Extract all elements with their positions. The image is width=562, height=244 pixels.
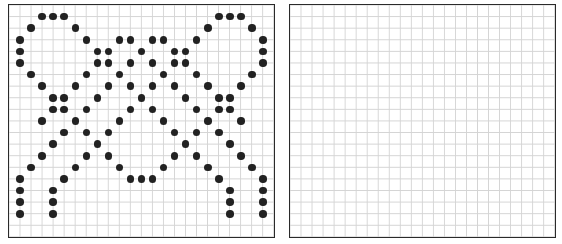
grid-dot <box>60 94 68 102</box>
grid-dot <box>127 175 135 183</box>
grid-dot <box>204 24 212 32</box>
grid-dot <box>182 94 190 102</box>
grid-dot <box>16 36 24 44</box>
grid-dot <box>171 152 179 160</box>
grid-dot <box>60 106 68 114</box>
grid-dot <box>204 82 212 90</box>
grid-dot <box>215 175 223 183</box>
grid-dot <box>38 152 46 160</box>
grid-dot <box>259 198 267 206</box>
grid-dot <box>105 152 113 160</box>
drawing-grid-panel[interactable]: empty drawing grid <box>289 4 556 238</box>
grid-dot <box>149 175 157 183</box>
grid-dot <box>193 152 201 160</box>
grid-dot <box>204 117 212 125</box>
grid-dot <box>259 175 267 183</box>
grid-dot <box>72 164 80 172</box>
grid-dot <box>38 117 46 125</box>
grid-dot <box>72 24 80 32</box>
grid-dot <box>237 117 245 125</box>
grid-dot <box>116 36 124 44</box>
grid-dot <box>149 36 157 44</box>
grid-dot <box>226 140 234 148</box>
grid-dot <box>127 36 135 44</box>
grid-dot <box>248 71 256 79</box>
grid-dot <box>16 198 24 206</box>
grid-dot <box>83 106 91 114</box>
grid-dot <box>248 164 256 172</box>
grid-dot <box>204 164 212 172</box>
grid-dot <box>72 82 80 90</box>
grid-dot <box>226 94 234 102</box>
grid-dot <box>259 59 267 67</box>
grid-dot <box>138 175 146 183</box>
grid-dot <box>215 94 223 102</box>
grid-dot <box>215 13 223 21</box>
grid-dot <box>16 59 24 67</box>
grid-dot <box>27 71 35 79</box>
grid-dot <box>226 187 234 195</box>
grid-dot <box>171 59 179 67</box>
grid-dot <box>49 198 57 206</box>
grid-dot <box>226 198 234 206</box>
grid-dot <box>83 36 91 44</box>
grid-dot <box>259 48 267 56</box>
grid-dot <box>49 210 57 218</box>
grid-dot <box>49 140 57 148</box>
grid-dot <box>94 140 102 148</box>
grid-dot <box>105 59 113 67</box>
drawing-grid[interactable] <box>290 5 555 237</box>
grid-dot <box>49 106 57 114</box>
grid-dot <box>127 59 135 67</box>
grid-dot <box>237 152 245 160</box>
grid-dot <box>248 24 256 32</box>
grid-dot <box>27 164 35 172</box>
grid-dot <box>16 175 24 183</box>
grid-dot <box>193 36 201 44</box>
grid-dot <box>138 94 146 102</box>
grid-dot <box>259 187 267 195</box>
grid-dot <box>38 82 46 90</box>
grid-dot <box>16 210 24 218</box>
grid-dot <box>60 175 68 183</box>
grid-dot <box>226 106 234 114</box>
grid-dot <box>259 210 267 218</box>
grid-dot <box>160 36 168 44</box>
grid-dot <box>72 117 80 125</box>
grid-dot <box>215 129 223 137</box>
grid-dot <box>259 36 267 44</box>
grid-dot <box>94 59 102 67</box>
grid-dot <box>16 187 24 195</box>
grid-dot <box>226 13 234 21</box>
grid-dot <box>237 13 245 21</box>
grid-dot <box>127 82 135 90</box>
grid-dot <box>116 117 124 125</box>
grid-dot <box>27 24 35 32</box>
grid-dot <box>160 117 168 125</box>
grid-dot <box>226 210 234 218</box>
grid-dot <box>149 59 157 67</box>
grid-dot <box>237 82 245 90</box>
grid-dot <box>94 94 102 102</box>
source-pattern-panel: source pattern <box>8 4 275 238</box>
grid-dot <box>83 152 91 160</box>
grid-dot <box>215 106 223 114</box>
grid-dot <box>16 48 24 56</box>
grid-dot <box>105 82 113 90</box>
grid-dot <box>49 94 57 102</box>
